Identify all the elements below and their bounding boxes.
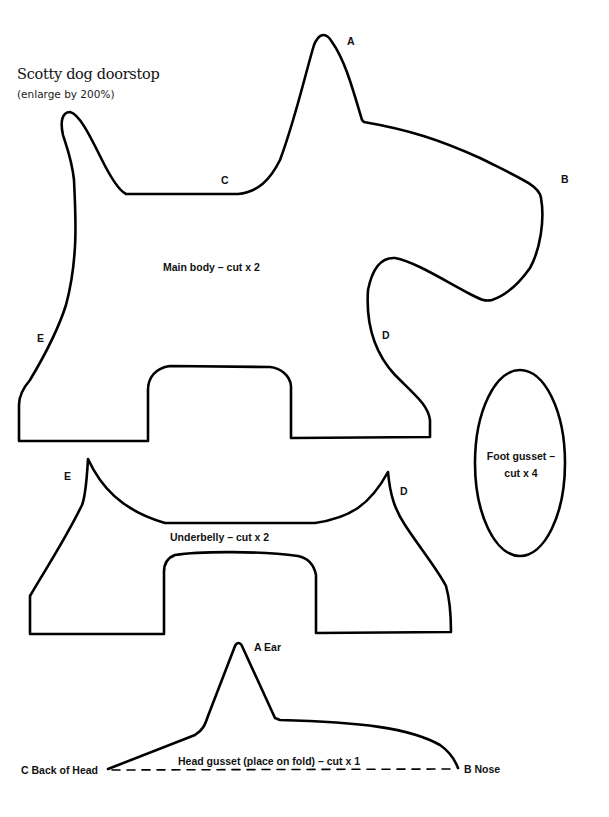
- underbelly-label: Underbelly – cut x 2: [170, 531, 269, 543]
- main-body-point-d: D: [382, 329, 390, 341]
- main-body-point-c: C: [221, 174, 229, 186]
- main-body-label: Main body – cut x 2: [163, 261, 260, 273]
- foot-gusset-outline: [475, 370, 565, 556]
- pattern-shapes: [0, 0, 609, 817]
- head-gusset-outline: [108, 643, 458, 769]
- main-body-point-b: B: [561, 173, 569, 185]
- head-gusset-point-back: C Back of Head: [21, 764, 98, 776]
- head-gusset-fold-line: [112, 769, 456, 770]
- main-body-point-a: A: [347, 35, 355, 47]
- pattern-page: Scotty dog doorstop (enlarge by 200%) A …: [0, 0, 609, 817]
- page-subtitle: (enlarge by 200%): [17, 88, 115, 100]
- underbelly-outline: [30, 459, 451, 634]
- foot-gusset-label-line1: Foot gusset –: [480, 450, 562, 462]
- underbelly-point-e: E: [64, 470, 71, 482]
- head-gusset-point-nose: B Nose: [464, 763, 500, 775]
- head-gusset-point-ear: A Ear: [254, 641, 281, 653]
- page-title: Scotty dog doorstop: [17, 66, 159, 82]
- main-body-point-e: E: [37, 332, 44, 344]
- head-gusset-label: Head gusset (place on fold) – cut x 1: [178, 755, 360, 767]
- foot-gusset-label-line2: cut x 4: [480, 467, 562, 479]
- underbelly-point-d: D: [400, 485, 408, 497]
